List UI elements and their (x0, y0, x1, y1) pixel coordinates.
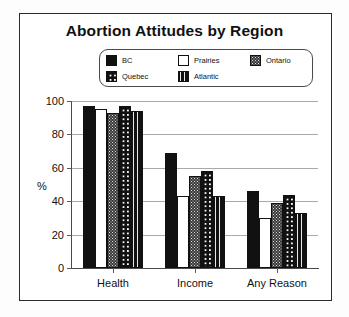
y-tick-mark (67, 235, 72, 236)
y-tick-label: 40 (52, 195, 64, 207)
bar-group-any-reason (247, 101, 307, 268)
y-tick-label: 100 (46, 95, 64, 107)
x-tick-label: Income (177, 277, 213, 289)
bar-ontario-any-reason (271, 203, 283, 268)
bar-prairies-any-reason (259, 218, 271, 268)
plot-area: 020406080100HealthIncomeAny Reason (72, 101, 318, 268)
legend-item-label: Prairies (194, 56, 219, 65)
bar-bc-any-reason (247, 191, 259, 268)
y-tick-label: 80 (52, 128, 64, 140)
legend-item-bc: BC (106, 55, 178, 66)
bar-atlantic-any-reason (295, 213, 307, 268)
bar-bc-income (165, 153, 177, 268)
bar-ontario-income (189, 176, 201, 268)
bar-quebec-any-reason (283, 195, 295, 268)
y-tick-mark (67, 168, 72, 169)
chart-legend: BCPrairiesOntario QuebecAtlantic (99, 49, 313, 87)
bar-atlantic-health (131, 111, 143, 268)
legend-row-1: BCPrairiesOntario (106, 53, 308, 68)
legend-item-label: Quebec (122, 72, 148, 81)
bar-ontario-health (107, 113, 119, 268)
legend-item-label: BC (122, 56, 132, 65)
y-axis-line (71, 101, 72, 269)
bar-atlantic-income (213, 196, 225, 268)
y-tick-label: 60 (52, 162, 64, 174)
y-tick-mark (67, 268, 72, 269)
y-axis-label: % (37, 180, 47, 192)
legend-item-atlantic: Atlantic (178, 71, 250, 82)
x-tick-label: Health (97, 277, 129, 289)
legend-item-ontario: Ontario (250, 55, 322, 66)
legend-swatch-icon (250, 55, 261, 66)
y-tick-label: 0 (58, 262, 64, 274)
bar-bc-health (83, 106, 95, 268)
legend-swatch-icon (106, 71, 117, 82)
y-tick-label: 20 (52, 229, 64, 241)
legend-item-label: Atlantic (194, 72, 219, 81)
chart-title: Abortion Attitudes by Region (0, 22, 349, 40)
y-tick-mark (67, 101, 72, 102)
bar-group-health (83, 101, 143, 268)
legend-swatch-icon (178, 71, 189, 82)
legend-item-label: Ontario (266, 56, 291, 65)
x-tick-mark (113, 268, 114, 273)
legend-swatch-icon (106, 55, 117, 66)
bar-quebec-health (119, 106, 131, 268)
legend-item-prairies: Prairies (178, 55, 250, 66)
legend-swatch-icon (178, 55, 189, 66)
chart-figure: Abortion Attitudes by Region BCPrairiesO… (0, 0, 349, 317)
bar-prairies-income (177, 196, 189, 268)
legend-item-quebec: Quebec (106, 71, 178, 82)
y-tick-mark (67, 201, 72, 202)
bar-group-income (165, 101, 225, 268)
x-tick-mark (277, 268, 278, 273)
bar-prairies-health (95, 109, 107, 268)
x-tick-label: Any Reason (247, 277, 307, 289)
legend-row-2: QuebecAtlantic (106, 69, 308, 84)
bar-quebec-income (201, 171, 213, 268)
y-tick-mark (67, 134, 72, 135)
x-tick-mark (195, 268, 196, 273)
